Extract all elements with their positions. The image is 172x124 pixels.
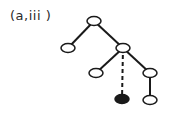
tree-node-root <box>87 17 101 26</box>
tree-node-dashed-child <box>115 95 129 104</box>
tree-node-mid <box>116 44 130 53</box>
tree-node-bottom-right <box>143 96 157 105</box>
tree-node-left <box>61 44 75 53</box>
diagram-canvas: (a,iii ) <box>0 0 172 124</box>
tree-node-mid-left <box>89 69 103 78</box>
tree-diagram <box>0 0 172 124</box>
tree-edge-mid-dashed-child <box>122 48 123 99</box>
tree-node-mid-right <box>143 69 157 78</box>
